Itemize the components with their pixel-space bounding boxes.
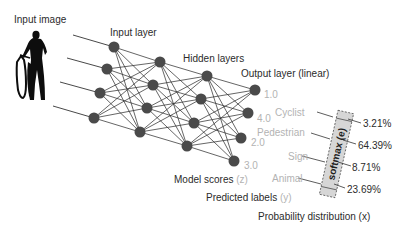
probability-cyclist: 3.21% [363,118,391,129]
model-scores-text: Model scores [174,174,233,185]
score-value: 1.0 [264,89,278,100]
class-label-pedestrian: Pedestrian [257,127,305,138]
score-value: 2.0 [251,137,265,148]
class-label-animal: Animal [272,173,303,184]
score-value: 3.0 [244,160,258,171]
model-scores-var: (z) [236,174,248,185]
probability-distribution-label: Probability distribution (x) [258,211,370,222]
probability-sign: 8.71% [352,162,380,173]
neural-network-diagram: softmax (e) Input image Input layer Hidd… [0,0,401,227]
class-label-sign: Sign [288,151,308,162]
probability-pedestrian: 64.39% [358,140,392,151]
neuron-node-hidden-2 [202,71,213,82]
network-edge [94,108,147,118]
neuron-node-hidden-1 [148,80,159,91]
predicted-labels-text: Predicted labels [206,192,277,203]
network-edge [107,62,160,69]
input-edge [73,35,114,47]
neuron-node-output [250,85,261,96]
input-edge [53,106,94,118]
probability-animal: 23.69% [347,184,381,195]
neuron-node-output [229,156,240,167]
output-layer-label: Output layer (linear) [241,68,329,79]
neuron-node-hidden-1 [155,57,166,68]
input-image-label: Input image [14,14,66,25]
predicted-labels-label: Predicted labels (y) [206,192,292,203]
input-edge [60,82,100,93]
input-layer-label: Input layer [110,27,157,38]
neuron-node-hidden-2 [182,141,193,152]
cyclist-silhouette-icon [17,31,47,100]
input-edge [67,58,107,69]
neuron-node-output [243,108,254,119]
predicted-labels-var: (y) [280,192,292,203]
neuron-node-input [102,64,113,75]
network-graph: softmax (e) [0,0,401,227]
neuron-node-hidden-2 [189,118,200,129]
neuron-node-output [236,133,247,144]
neuron-node-input [89,113,100,124]
class-label-cyclist: Cyclist [275,107,304,118]
neuron-node-input [109,42,120,53]
model-scores-label: Model scores (z) [174,174,248,185]
neuron-node-hidden-2 [196,94,207,105]
hidden-layers-label: Hidden layers [183,53,244,64]
neuron-node-input [95,88,106,99]
score-value: 4.0 [257,113,271,124]
neuron-node-hidden-1 [142,103,153,114]
neuron-node-hidden-1 [135,127,146,138]
